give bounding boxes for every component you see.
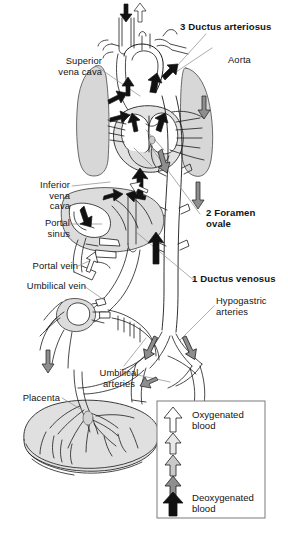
legend: [0, 0, 288, 535]
legend-label-oxygenated: Oxygenated blood: [192, 409, 244, 431]
legend-label-deoxygenated: Deoxygenated blood: [192, 492, 254, 514]
fetal-circulation-figure: Superior vena cava Inferior vena cava Po…: [0, 0, 288, 535]
